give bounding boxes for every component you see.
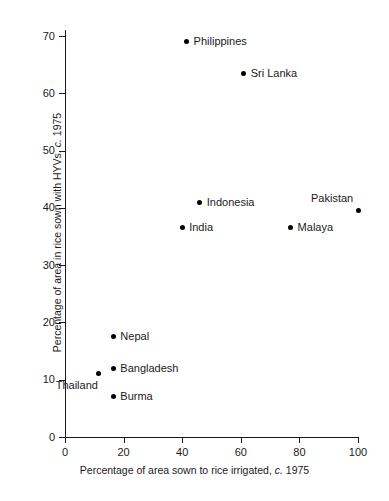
data-point[interactable] <box>197 200 202 205</box>
x-axis-line <box>65 437 359 438</box>
data-point[interactable] <box>184 39 189 44</box>
data-point-label: Malaya <box>298 222 333 233</box>
y-tick-label: 0 <box>27 432 55 443</box>
data-point[interactable] <box>356 208 361 213</box>
data-point-label: Pakistan <box>311 193 353 204</box>
x-tick-mark <box>182 437 183 443</box>
x-axis-title: Percentage of area sown to rice irrigate… <box>0 464 389 477</box>
circa-abbreviation: c. <box>275 464 283 476</box>
x-tick-label: 80 <box>284 447 314 458</box>
data-point-label: Bangladesh <box>120 363 178 374</box>
data-point-label: Indonesia <box>207 197 255 208</box>
x-tick-label: 0 <box>50 447 80 458</box>
data-point-label: Sri Lanka <box>251 68 297 79</box>
x-tick-label: 100 <box>343 447 373 458</box>
circa-abbreviation: c. <box>51 139 63 147</box>
x-tick-mark <box>241 437 242 443</box>
x-tick-label: 20 <box>109 447 139 458</box>
x-tick-mark <box>65 437 66 443</box>
data-point[interactable] <box>111 366 116 371</box>
data-point[interactable] <box>111 334 116 339</box>
x-tick-mark <box>124 437 125 443</box>
y-axis-line <box>65 30 66 438</box>
data-point[interactable] <box>111 394 116 399</box>
scatter-chart: 010203040506070 020406080100 Philippines… <box>0 0 389 501</box>
x-tick-mark <box>358 437 359 443</box>
data-point-label: India <box>189 222 213 233</box>
x-tick-mark <box>299 437 300 443</box>
data-point[interactable] <box>241 71 246 76</box>
x-tick-label: 60 <box>226 447 256 458</box>
y-axis-title: Percentage of area in rice sown with HYV… <box>51 33 64 433</box>
data-point[interactable] <box>288 225 293 230</box>
data-point-label: Philippines <box>194 36 247 47</box>
data-point-label: Burma <box>120 391 152 402</box>
data-point[interactable] <box>96 371 101 376</box>
data-point-label: Nepal <box>120 331 149 342</box>
x-tick-label: 40 <box>167 447 197 458</box>
data-point[interactable] <box>180 225 185 230</box>
